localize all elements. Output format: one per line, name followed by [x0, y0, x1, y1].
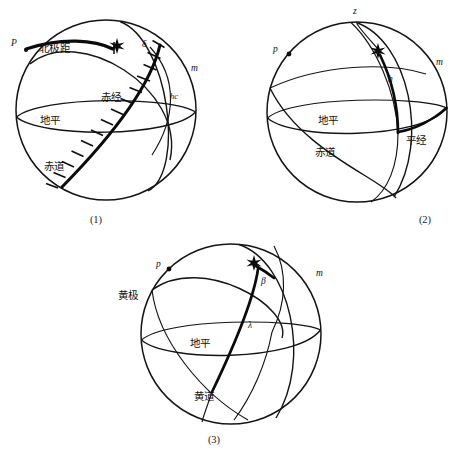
label-azimuth-2: 平经 [406, 134, 427, 146]
label-hour-circle-1: hc [170, 91, 178, 101]
caption-figure-3: (3) [208, 434, 221, 446]
label-polar-distance-1: 北极距 [39, 42, 71, 54]
meridian-circle-3 [239, 245, 294, 419]
pole-dot-1 [24, 48, 28, 52]
label-meridian-3: m [316, 268, 323, 278]
label-equator-1: 赤道 [44, 160, 65, 172]
horizon-circle-2-back [268, 100, 447, 118]
label-ecliptic-pole-3: 黄极 [118, 289, 139, 301]
ecliptic-longitude-arc-3 [212, 269, 258, 392]
pole-dot-3 [167, 267, 172, 272]
label-horizon-3: 地平 [190, 337, 211, 349]
horizon-circle-2 [268, 108, 447, 133]
label-right-ascension-1: 赤经 [101, 91, 122, 103]
label-ecliptic-longitude-3: λ [247, 320, 252, 330]
sphere-outline-2 [267, 22, 447, 202]
celestial-sphere-figure-sheet: P 北极距 δ 赤经 地平 赤道 m hc (1) [0, 0, 463, 454]
latitude-circle-3-mid [234, 332, 272, 420]
label-equator-2: 赤道 [315, 146, 336, 158]
label-declination-1: δ [142, 39, 147, 49]
label-ecliptic-3: 黄道 [194, 390, 215, 402]
label-meridian-2: m [436, 57, 443, 67]
label-altitude-2: h [388, 74, 393, 84]
vertical-circle-2-lower [371, 133, 398, 202]
label-pole-1: P [10, 38, 17, 48]
label-meridian-1: m [191, 63, 198, 73]
right-ascension-arc-1 [62, 45, 160, 187]
caption-figure-2: (2) [419, 214, 432, 226]
label-pole-3: p [155, 259, 161, 269]
equator-circle-2-front [270, 88, 396, 198]
label-ecliptic-latitude-3: β [260, 276, 266, 286]
figure-2-horizontal-sphere: p z h 地平 赤道 平经 m (2) [230, 0, 463, 230]
figure-1-equatorial-sphere: P 北极距 δ 赤经 地平 赤道 m hc (1) [0, 0, 215, 230]
figure-3-ecliptic-sphere: p 黄极 β λ 地平 黄道 m (3) [106, 230, 359, 454]
label-pole-2: p [272, 44, 278, 54]
caption-figure-1: (1) [90, 214, 103, 226]
star-marker-1 [109, 38, 124, 54]
pole-dot-2 [287, 52, 292, 57]
label-horizon-1: 地平 [40, 114, 61, 126]
label-zenith-2: z [352, 6, 357, 16]
label-horizon-2: 地平 [318, 114, 339, 126]
